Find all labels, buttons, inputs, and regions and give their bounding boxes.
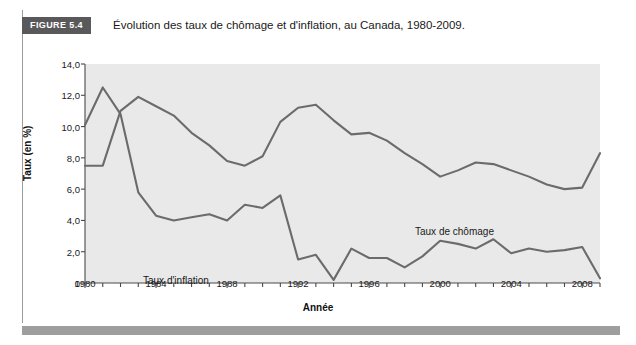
x-tick-label: 1996 <box>359 278 380 289</box>
y-tick-label: 12,0 <box>46 90 80 101</box>
y-tick-label: 6,0 <box>46 184 80 195</box>
x-axis-title: Année <box>0 302 636 313</box>
x-tick-label: 1988 <box>216 278 237 289</box>
y-tick-label: 2,0 <box>46 246 80 257</box>
y-tick-label: 4,0 <box>46 215 80 226</box>
y-tick-label: 10,0 <box>46 121 80 132</box>
series-label-inflation: Taux d'inflation <box>143 275 209 286</box>
figure-number-badge: FIGURE 5.4 <box>22 17 91 34</box>
x-tick-label: 1992 <box>288 278 309 289</box>
x-tick-label: 2000 <box>430 278 451 289</box>
figure-header: FIGURE 5.4 Évolution des taux de chômage… <box>22 14 465 36</box>
figure-bottom-bar <box>22 326 620 335</box>
y-axis-tick-labels: 02,04,06,08,010,012,014,0 <box>42 46 80 286</box>
x-tick-label: 2008 <box>572 278 593 289</box>
figure-container: FIGURE 5.4 Évolution des taux de chômage… <box>0 0 636 345</box>
chart-area: Taux (en %) 02,04,06,08,010,012,014,0 19… <box>0 46 636 326</box>
x-axis-tick-labels: 19801984198819921996200020042008 <box>0 278 636 294</box>
series-label-unemployment: Taux de chômage <box>415 226 494 237</box>
x-tick-label: 2004 <box>501 278 522 289</box>
figure-title: Évolution des taux de chômage et d'infla… <box>113 19 465 31</box>
y-tick-label: 14,0 <box>46 59 80 70</box>
x-tick-label: 1980 <box>74 278 95 289</box>
y-tick-label: 8,0 <box>46 152 80 163</box>
